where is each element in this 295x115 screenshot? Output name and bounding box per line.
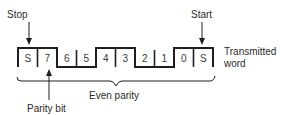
transmitted-word-diagram: Stop Start S76543210S Transmitted word E… — [0, 0, 295, 115]
bit-cell-label: 6 — [64, 53, 70, 64]
start-arrow-icon — [199, 22, 205, 45]
transmitted-label-line1: Transmitted — [224, 46, 276, 57]
bit-cell-label: S — [24, 53, 31, 64]
stop-arrow-icon — [26, 22, 32, 45]
even-parity-brace — [17, 76, 215, 86]
bit-cell-label: 7 — [44, 53, 50, 64]
bit-waveform: S76543210S — [18, 48, 213, 67]
transmitted-label-line2: word — [223, 58, 246, 69]
parity-bit-label: Parity bit — [27, 103, 66, 114]
start-label: Start — [191, 9, 212, 20]
bit-cell-label: 1 — [161, 53, 167, 64]
parity-bit-arrow-icon — [46, 69, 52, 100]
bit-cell-label: 4 — [103, 53, 109, 64]
bit-cell-label: 2 — [142, 53, 148, 64]
bit-cell-label: 3 — [122, 53, 128, 64]
stop-label: Stop — [7, 9, 28, 20]
bit-cell-label: S — [200, 53, 207, 64]
even-parity-label: Even parity — [89, 90, 139, 101]
bit-cell-label: 5 — [83, 53, 89, 64]
bit-cell-label: 0 — [181, 53, 187, 64]
